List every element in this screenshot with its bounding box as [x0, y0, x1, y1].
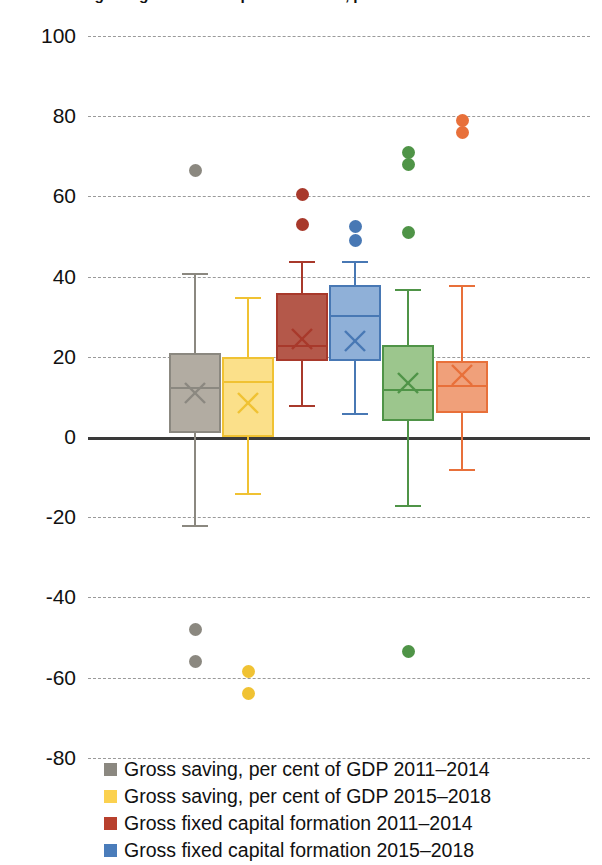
gridline-0	[88, 437, 590, 440]
legend-item-label: Gross saving, per cent of GDP 2015–2018	[124, 787, 491, 807]
y-axis-tick-label: 20	[0, 346, 76, 367]
outlier-point	[402, 645, 415, 658]
median-line	[222, 381, 274, 383]
chart-legend: Gross saving, per cent of GDP 2011–2014G…	[0, 756, 602, 864]
whisker-cap-high	[289, 261, 315, 263]
whisker-cap-high	[395, 289, 421, 291]
box-iqr	[169, 353, 221, 433]
outlier-point	[189, 655, 202, 668]
whisker-cap-low	[449, 469, 475, 471]
legend-item[interactable]: Gross saving, per cent of GDP 2015–2018	[0, 783, 602, 810]
whisker-cap-high	[342, 261, 368, 263]
outlier-point	[189, 623, 202, 636]
y-axis-tick-label: 80	[0, 105, 76, 126]
gridline--60	[88, 678, 590, 679]
median-line	[169, 387, 221, 389]
legend-swatch-icon	[104, 763, 117, 776]
outlier-point	[456, 126, 469, 139]
legend-swatch-icon	[104, 844, 117, 857]
outlier-point	[296, 218, 309, 231]
whisker-cap-high	[182, 273, 208, 275]
box-iqr	[222, 357, 274, 437]
y-axis-tick-label: 60	[0, 185, 76, 206]
legend-item-label: Gross fixed capital formation 2011–2014	[124, 814, 473, 834]
legend-swatch-icon	[104, 790, 117, 803]
legend-item[interactable]: Gross saving, per cent of GDP 2011–2014	[0, 756, 602, 783]
legend-item[interactable]: Gross fixed capital formation 2015–2018	[0, 837, 602, 864]
box-iqr	[329, 285, 381, 361]
legend-swatch-icon	[104, 817, 117, 830]
y-axis-tick-label: 40	[0, 266, 76, 287]
box-iqr	[436, 361, 488, 413]
whisker-cap-low	[182, 525, 208, 527]
outlier-point	[349, 220, 362, 233]
gridline-100	[88, 36, 590, 37]
chart-figure: Gross saving and gross fixed capital for…	[0, 0, 602, 865]
outlier-point	[189, 164, 202, 177]
y-axis-tick-label: 100	[0, 25, 76, 46]
box-iqr	[276, 293, 328, 361]
gridline--40	[88, 597, 590, 598]
outlier-point	[242, 687, 255, 700]
y-axis-tick-label: 0	[0, 426, 76, 447]
box-iqr	[382, 345, 434, 421]
outlier-point	[456, 114, 469, 127]
outlier-point	[402, 146, 415, 159]
median-line	[382, 389, 434, 391]
gridline-60	[88, 196, 590, 197]
gridline-40	[88, 277, 590, 278]
whisker-cap-high	[235, 297, 261, 299]
whisker-cap-low	[342, 413, 368, 415]
plot-area: 100806040200-20-40-60-80	[0, 0, 602, 760]
outlier-point	[296, 188, 309, 201]
gridline-80	[88, 116, 590, 117]
median-line	[436, 385, 488, 387]
whisker-cap-low	[235, 493, 261, 495]
y-axis-tick-label: -60	[0, 667, 76, 688]
outlier-point	[349, 234, 362, 247]
y-axis-tick-label: -40	[0, 586, 76, 607]
outlier-point	[242, 665, 255, 678]
median-line	[329, 315, 381, 317]
whisker-cap-low	[289, 405, 315, 407]
outlier-point	[402, 158, 415, 171]
legend-item-label: Gross fixed capital formation 2015–2018	[124, 841, 474, 861]
y-axis-tick-label: -20	[0, 506, 76, 527]
whisker-cap-high	[449, 285, 475, 287]
whisker-cap-low	[395, 505, 421, 507]
outlier-point	[402, 226, 415, 239]
gridline--20	[88, 517, 590, 518]
median-line	[276, 345, 328, 347]
legend-item[interactable]: Gross fixed capital formation 2011–2014	[0, 810, 602, 837]
legend-item-label: Gross saving, per cent of GDP 2011–2014	[124, 760, 490, 780]
